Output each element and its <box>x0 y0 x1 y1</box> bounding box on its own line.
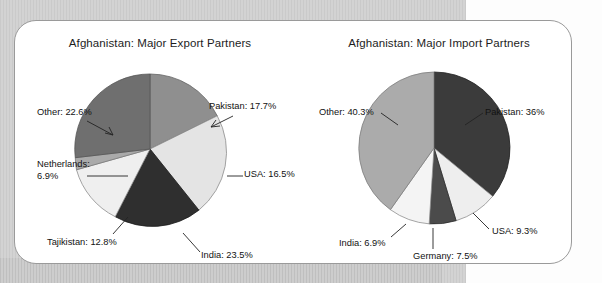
export-label-tajikistan: Tajikistan: 12.8% <box>47 237 117 249</box>
export-leader-lines <box>15 21 305 265</box>
export-label-netherlands: Netherlands: 6.9% <box>37 159 103 182</box>
figure-card: Afghanistan: Major Export Partners <box>14 20 572 264</box>
import-label-india: India: 6.9% <box>339 238 386 250</box>
export-label-india: India: 23.5% <box>201 250 253 262</box>
import-label-usa: USA: 9.3% <box>492 226 537 238</box>
export-partners-chart: Afghanistan: Major Export Partners <box>15 21 305 265</box>
import-label-other: Other: 40.3% <box>319 107 374 119</box>
export-label-pakistan: Pakistan: 17.7% <box>209 101 276 113</box>
export-label-usa: USA: 16.5% <box>244 169 295 181</box>
import-partners-chart: Afghanistan: Major Import Partners <box>305 21 573 265</box>
export-label-other: Other: 22.6% <box>37 107 92 119</box>
import-label-pakistan: Pakistan: 36% <box>485 107 544 119</box>
import-label-germany: Germany: 7.5% <box>413 251 478 263</box>
